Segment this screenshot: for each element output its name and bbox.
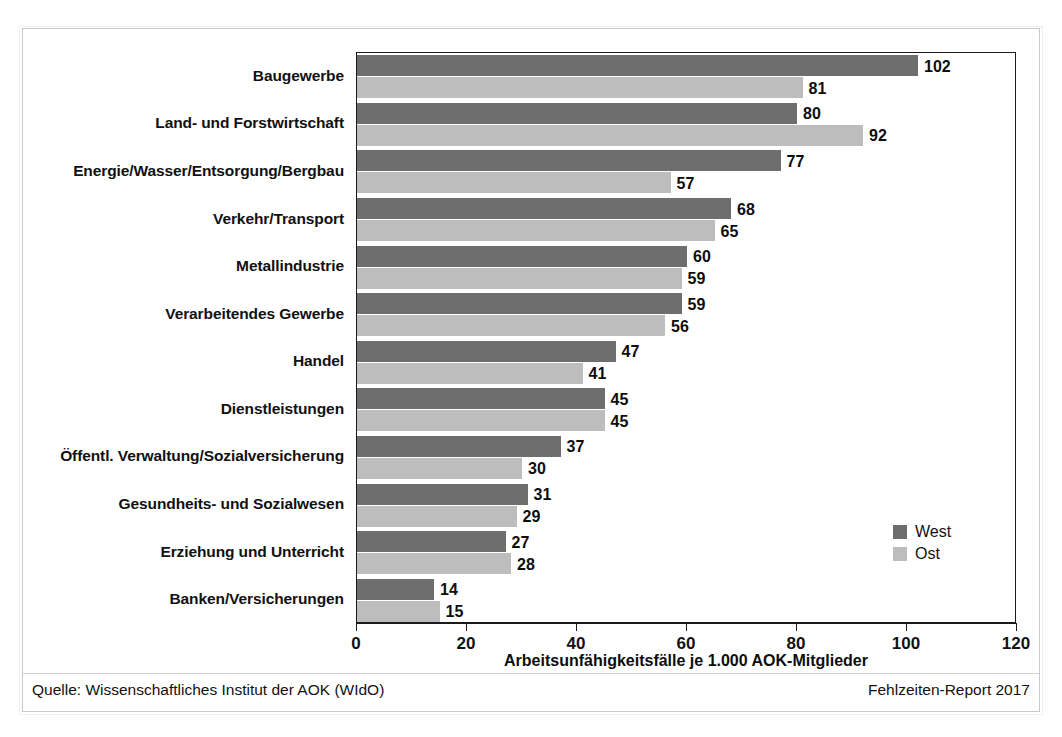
category-label: Gesundheits- und Sozialwesen [119,495,344,513]
x-axis-tick-label: 120 [1002,634,1030,654]
bar-value-label: 28 [517,556,535,574]
footer-divider [23,673,1039,674]
bar-ost [357,410,605,431]
x-axis-tick-label: 80 [787,634,806,654]
bar-west [357,579,434,600]
x-axis-tick [906,623,907,631]
x-axis-tick [466,623,467,631]
bar-west [357,246,687,267]
bar-west [357,103,797,124]
x-axis-tick-label: 100 [892,634,920,654]
bar-west [357,484,528,505]
legend-label-ost: Ost [915,545,940,563]
bar-value-label: 68 [737,201,755,219]
bar-value-label: 29 [523,508,541,526]
x-axis-tick [356,623,357,631]
bar-value-label: 47 [622,343,640,361]
bar-west [357,150,781,171]
bar-ost [357,172,671,193]
chart-figure: BaugewerbeLand- und ForstwirtschaftEnerg… [0,0,1062,737]
x-axis-tick-label: 20 [457,634,476,654]
bar-west [357,341,616,362]
bar-value-label: 92 [869,127,887,145]
x-axis-tick [1016,623,1017,631]
bar-ost [357,458,522,479]
bar-west [357,388,605,409]
x-axis-tick [686,623,687,631]
bar-value-label: 30 [528,460,546,478]
x-axis-tick [576,623,577,631]
bar-value-label: 15 [446,603,464,621]
legend-item-ost[interactable]: Ost [893,544,1003,564]
bar-value-label: 45 [611,391,629,409]
bar-value-label: 102 [924,58,951,76]
legend-label-west: West [915,523,951,541]
footer: Quelle: Wissenschaftliches Institut der … [32,681,1030,699]
bar-ost [357,506,517,527]
bar-value-label: 59 [688,270,706,288]
category-label: Öffentl. Verwaltung/Sozialversicherung [60,447,344,465]
bar-value-label: 81 [809,80,827,98]
bar-west [357,198,731,219]
bar-value-label: 14 [440,581,458,599]
category-label: Dienstleistungen [221,400,344,418]
category-label: Erziehung und Unterricht [160,543,344,561]
bar-value-label: 31 [534,486,552,504]
bar-value-label: 80 [803,105,821,123]
bar-ost [357,268,682,289]
x-axis-tick-label: 0 [351,634,360,654]
bar-ost [357,220,715,241]
category-axis: BaugewerbeLand- und ForstwirtschaftEnerg… [20,52,350,623]
bar-ost [357,315,665,336]
bar-value-label: 56 [671,318,689,336]
category-label: Baugewerbe [253,67,344,85]
category-label: Banken/Versicherungen [170,590,345,608]
bar-value-label: 77 [787,153,805,171]
chart-legend: West Ost [893,522,1003,566]
category-label: Handel [293,352,344,370]
bar-west [357,531,506,552]
x-axis-tick-label: 40 [567,634,586,654]
bar-value-label: 37 [567,438,585,456]
category-label: Verarbeitendes Gewerbe [165,305,344,323]
bar-ost [357,125,863,146]
bar-value-label: 45 [611,413,629,431]
bar-ost [357,77,803,98]
bar-value-label: 27 [512,534,530,552]
legend-item-west[interactable]: West [893,522,1003,542]
bar-value-label: 59 [688,296,706,314]
bar-west [357,55,918,76]
legend-swatch-ost-icon [893,547,907,561]
bar-value-label: 65 [721,223,739,241]
x-axis-title: Arbeitsunfähigkeitsfälle je 1.000 AOK-Mi… [356,652,1016,670]
category-label: Verkehr/Transport [213,210,344,228]
bar-value-label: 41 [589,365,607,383]
x-axis-tick [796,623,797,631]
category-label: Metallindustrie [236,257,344,275]
bar-ost [357,553,511,574]
category-label: Land- und Forstwirtschaft [155,114,344,132]
footer-source: Quelle: Wissenschaftliches Institut der … [32,681,384,699]
bar-value-label: 60 [693,248,711,266]
bar-ost [357,601,440,622]
legend-swatch-west-icon [893,525,907,539]
x-axis-tick-label: 60 [677,634,696,654]
bar-value-label: 57 [677,175,695,193]
bar-west [357,293,682,314]
bar-ost [357,363,583,384]
bar-west [357,436,561,457]
category-label: Energie/Wasser/Entsorgung/Bergbau [73,162,344,180]
footer-report: Fehlzeiten-Report 2017 [868,681,1030,699]
